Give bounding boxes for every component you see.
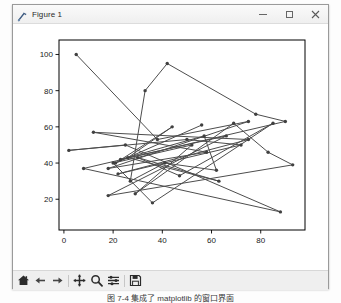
zoom-button[interactable] [88,273,104,289]
svg-text:80: 80 [44,87,53,96]
pan-button[interactable] [71,273,87,289]
home-button[interactable] [15,273,31,289]
pan-move-icon [73,274,86,287]
save-disk-icon [129,274,142,287]
figure-canvas[interactable]: 020406080 20406080100 [13,24,328,270]
zoom-magnifier-icon [90,274,103,287]
toolbar-separator [68,275,69,287]
window-title: Figure 1 [32,10,62,19]
svg-text:20: 20 [44,195,53,204]
svg-text:80: 80 [256,236,265,245]
figure-caption: 图 7-4 集成了 matplotlib 的窗口界面 [0,292,341,303]
home-icon [17,274,30,287]
close-icon [311,10,320,19]
configure-subplots-button[interactable] [105,273,121,289]
navigation-toolbar [13,270,328,290]
maximize-icon [286,11,293,18]
toolbar-separator [124,275,125,287]
svg-text:60: 60 [44,123,53,132]
minimize-button[interactable] [250,5,276,23]
svg-text:40: 40 [158,236,167,245]
svg-text:40: 40 [44,159,53,168]
svg-text:20: 20 [109,236,118,245]
matplotlib-axes: 020406080 20406080100 [13,24,328,270]
back-arrow-icon [34,274,47,287]
svg-text:100: 100 [40,50,54,59]
subplot-config-icon [107,274,120,287]
save-figure-button[interactable] [127,273,143,289]
forward-arrow-icon [51,274,64,287]
svg-text:60: 60 [207,236,216,245]
forward-button[interactable] [49,273,65,289]
window-titlebar[interactable]: Figure 1 [13,5,328,24]
minimize-icon [259,14,267,15]
back-button[interactable] [32,273,48,289]
maximize-button[interactable] [276,5,302,23]
figure-window: Figure 1 [12,4,329,289]
page-background: Figure 1 [0,0,341,303]
matplotlib-figure-icon [17,8,29,20]
svg-text:0: 0 [62,236,67,245]
close-button[interactable] [302,5,328,23]
window-controls [250,5,328,23]
